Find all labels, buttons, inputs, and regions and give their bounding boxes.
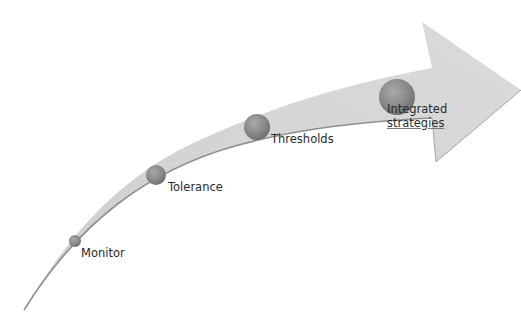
step-circle-tolerance	[146, 165, 166, 185]
step-circle-thresholds	[244, 114, 270, 140]
step-label-thresholds: Thresholds	[271, 132, 334, 146]
curved-arrow-diagram: Monitor Tolerance Thresholds Integrated …	[0, 0, 521, 322]
step-label-monitor: Monitor	[81, 246, 125, 260]
step-label-integrated: Integrated	[387, 102, 447, 116]
step-label-strategies: strategies	[387, 116, 444, 130]
step-circle-monitor	[69, 235, 81, 247]
arrow-shape	[24, 22, 521, 310]
curved-arrow-graphic	[0, 0, 521, 322]
step-label-tolerance: Tolerance	[168, 180, 223, 194]
